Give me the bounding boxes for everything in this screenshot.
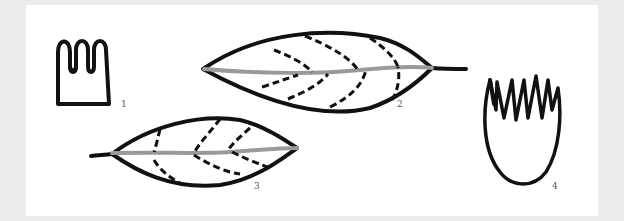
figure-1-lobed-square bbox=[58, 41, 109, 104]
figure-label-3: 3 bbox=[254, 181, 260, 191]
figure-4-pointed-cup bbox=[485, 76, 560, 184]
figure-label-2: 2 bbox=[397, 99, 403, 109]
figure-label-4: 4 bbox=[552, 181, 558, 191]
figure-2-leaf bbox=[203, 33, 466, 112]
figure-3-leaf bbox=[91, 118, 297, 185]
leaf-diagram: 1 2 3 4 bbox=[0, 0, 624, 221]
figure-label-1: 1 bbox=[121, 99, 127, 109]
